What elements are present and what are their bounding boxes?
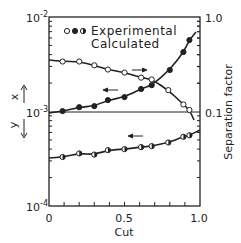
legend-filled-marker (72, 28, 77, 33)
data-point-filled (105, 98, 110, 103)
legend-half-marker (80, 28, 85, 33)
y-left-tick-top: 10-2 (26, 10, 48, 25)
legend-experimental: Experimental (91, 24, 177, 38)
data-point-filled (167, 67, 172, 72)
x-tick-05: 0.5 (115, 212, 133, 225)
data-point-filled (187, 37, 192, 42)
arrow-left-icon (103, 88, 118, 92)
data-point-filled (77, 105, 82, 110)
legend-calculated: Calculated (91, 37, 160, 51)
x-axis-label-group: x (8, 85, 27, 103)
data-point-open (166, 88, 171, 93)
y-left-label-x: x (8, 93, 21, 100)
data-point-open (77, 59, 82, 64)
data-point-half (149, 144, 154, 149)
data-point-half (105, 148, 110, 153)
data-point-open (105, 67, 110, 72)
data-point-open (92, 63, 97, 68)
data-point-half (77, 151, 82, 156)
data-point-filled (92, 104, 97, 109)
legend-open-marker (64, 28, 69, 33)
arrow-right-icon (132, 68, 147, 72)
y-right-tick-top: 1.0 (205, 12, 223, 25)
arrow-left-icon (128, 134, 143, 138)
data-point-open (149, 77, 154, 82)
data-point-half (166, 140, 171, 145)
y-right-tick-bottom: 0.1 (205, 107, 223, 120)
data-point-open (139, 75, 144, 80)
y-axis-label-group: y (7, 119, 27, 138)
chart: 10-2 10-3 10-4 1.0 0.1 0 0.5 1.0 Cut Sep… (0, 0, 241, 243)
data-point-filled (149, 83, 154, 88)
data-point-open (122, 70, 127, 75)
data-point-open (181, 102, 186, 107)
data-point-filled (139, 86, 144, 91)
x-axis-title: Cut (115, 226, 135, 239)
data-point-half (122, 147, 127, 152)
data-point-half (181, 134, 186, 139)
data-point-half (92, 152, 97, 157)
data-point-open (187, 107, 192, 112)
data-point-open (60, 59, 65, 64)
data-point-filled (181, 49, 186, 54)
data-point-half (187, 133, 192, 138)
legend: Experimental Calculated (64, 24, 177, 51)
data-point-filled (60, 108, 65, 113)
y-right-axis-title: Separation factor (222, 64, 235, 160)
data-point-half (60, 154, 65, 159)
data-point-filled (122, 95, 127, 100)
x-tick-0: 0 (46, 212, 53, 225)
data-point-half (139, 145, 144, 150)
x-tick-1: 1.0 (190, 212, 208, 225)
y-left-label-y: y (7, 121, 20, 128)
y-left-tick-mid: 10-3 (26, 105, 48, 120)
